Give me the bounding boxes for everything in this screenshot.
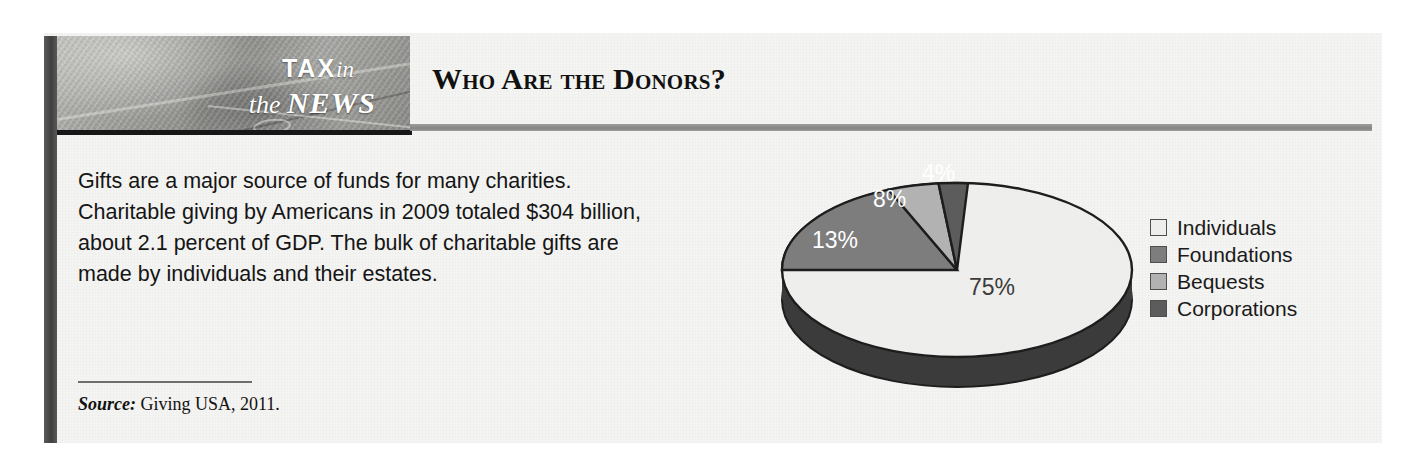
pie-value-label-bequests: 8% bbox=[873, 186, 906, 213]
pie-value-label-corporations: 4% bbox=[922, 160, 955, 187]
legend-item-foundations: Foundations bbox=[1150, 241, 1360, 268]
pie-graphic: 75% 13% 8% 4% bbox=[760, 150, 1160, 390]
pie-svg bbox=[760, 150, 1160, 390]
legend-swatch-foundations bbox=[1150, 246, 1167, 263]
legend-item-individuals: Individuals bbox=[1150, 214, 1360, 241]
legend-swatch-bequests bbox=[1150, 273, 1167, 290]
legend-swatch-corporations bbox=[1150, 300, 1167, 317]
banner-wordmark: TAXin the NEWS bbox=[57, 36, 410, 130]
banner-line-two: the NEWS bbox=[249, 88, 376, 118]
tax-in-the-news-figure: TAXin the NEWS Who Are the Donors? Gifts… bbox=[0, 0, 1403, 464]
pie-value-label-individuals: 75% bbox=[969, 274, 1015, 301]
banner-underline bbox=[57, 130, 412, 135]
banner-word-in: in bbox=[336, 57, 354, 82]
banner-word-tax: TAX bbox=[282, 54, 336, 82]
tax-in-the-news-banner: TAXin the NEWS bbox=[57, 36, 410, 130]
banner-word-news: NEWS bbox=[287, 86, 376, 119]
legend-item-bequests: Bequests bbox=[1150, 268, 1360, 295]
legend-item-corporations: Corporations bbox=[1150, 295, 1360, 322]
body-paragraph: Gifts are a major source of funds for ma… bbox=[78, 166, 648, 290]
source-divider bbox=[78, 381, 252, 383]
banner-word-the: the bbox=[249, 90, 287, 119]
source-text: Giving USA, 2011. bbox=[136, 394, 280, 414]
left-accent-bar bbox=[44, 36, 57, 443]
legend-label-corporations: Corporations bbox=[1177, 298, 1297, 319]
legend-label-individuals: Individuals bbox=[1177, 217, 1276, 238]
pie-value-label-foundations: 13% bbox=[812, 227, 858, 254]
legend-label-foundations: Foundations bbox=[1177, 244, 1293, 265]
donor-pie-chart: 75% 13% 8% 4% Individuals Foundations Be… bbox=[760, 150, 1360, 400]
source-label: Source: bbox=[78, 394, 136, 414]
chart-legend: Individuals Foundations Bequests Corpora… bbox=[1150, 214, 1360, 322]
source-citation: Source: Giving USA, 2011. bbox=[78, 394, 280, 415]
legend-swatch-individuals bbox=[1150, 219, 1167, 236]
page-title: Who Are the Donors? bbox=[432, 62, 726, 96]
banner-line-one: TAXin bbox=[282, 56, 354, 81]
legend-label-bequests: Bequests bbox=[1177, 271, 1265, 292]
header-divider bbox=[410, 124, 1372, 131]
